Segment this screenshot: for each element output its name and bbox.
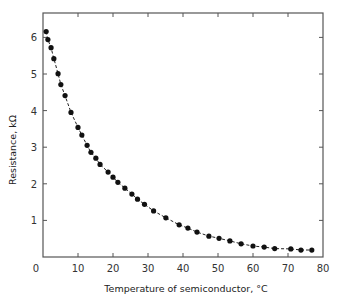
y-tick-label: 6 <box>31 32 37 43</box>
data-point <box>177 222 182 227</box>
data-point <box>88 150 93 155</box>
data-point <box>288 246 293 251</box>
data-point <box>239 241 244 246</box>
x-tick-label: 30 <box>142 263 155 274</box>
data-point <box>298 247 303 252</box>
data-point <box>97 162 102 167</box>
x-tick-label: 80 <box>317 263 330 274</box>
x-axis-title: Temperature of semiconductor, °C <box>103 283 268 294</box>
x-tick-label: 60 <box>247 263 260 274</box>
y-tick-label: 1 <box>31 215 37 226</box>
data-point <box>194 230 199 235</box>
data-point <box>75 125 80 130</box>
x-tick-label: 70 <box>282 263 295 274</box>
resistance-temperature-chart: 01020304050607080 123456 Temperature of … <box>0 0 348 304</box>
data-point <box>44 29 49 34</box>
y-axis-title: Resistance, kΩ <box>7 115 18 185</box>
data-point <box>185 225 190 230</box>
x-tick-label: 0 <box>33 263 39 274</box>
data-point <box>206 234 211 239</box>
y-tick-label: 5 <box>31 69 37 80</box>
data-point <box>272 246 277 251</box>
x-tick-label: 50 <box>212 263 225 274</box>
data-point <box>129 191 134 196</box>
data-point <box>122 186 127 191</box>
x-tick-label: 10 <box>72 263 85 274</box>
axes-box <box>43 13 323 257</box>
data-point <box>262 245 267 250</box>
data-point <box>115 180 120 185</box>
data-point <box>227 238 232 243</box>
y-tick-label: 2 <box>31 179 37 190</box>
data-point <box>110 175 115 180</box>
data-point <box>106 169 111 174</box>
x-tick-label: 20 <box>107 263 120 274</box>
data-point <box>48 45 53 50</box>
y-tick-label: 3 <box>31 142 37 153</box>
data-point <box>85 143 90 148</box>
y-axis-ticks: 123456 <box>31 32 323 226</box>
data-point <box>135 197 140 202</box>
data-point <box>62 93 67 98</box>
data-point <box>45 37 50 42</box>
data-point <box>142 202 147 207</box>
data-point <box>93 156 98 161</box>
data-point <box>58 82 63 87</box>
x-axis-ticks: 01020304050607080 <box>33 13 330 274</box>
data-point <box>163 215 168 220</box>
x-tick-label: 40 <box>177 263 190 274</box>
data-point <box>151 208 156 213</box>
data-series-curve <box>46 32 312 251</box>
data-point <box>68 110 73 115</box>
data-point <box>79 133 84 138</box>
plot-frame <box>43 13 323 257</box>
data-point <box>51 56 56 61</box>
data-point <box>309 247 314 252</box>
y-tick-label: 4 <box>31 106 37 117</box>
data-point <box>250 243 255 248</box>
data-point <box>55 71 60 76</box>
data-point <box>216 236 221 241</box>
